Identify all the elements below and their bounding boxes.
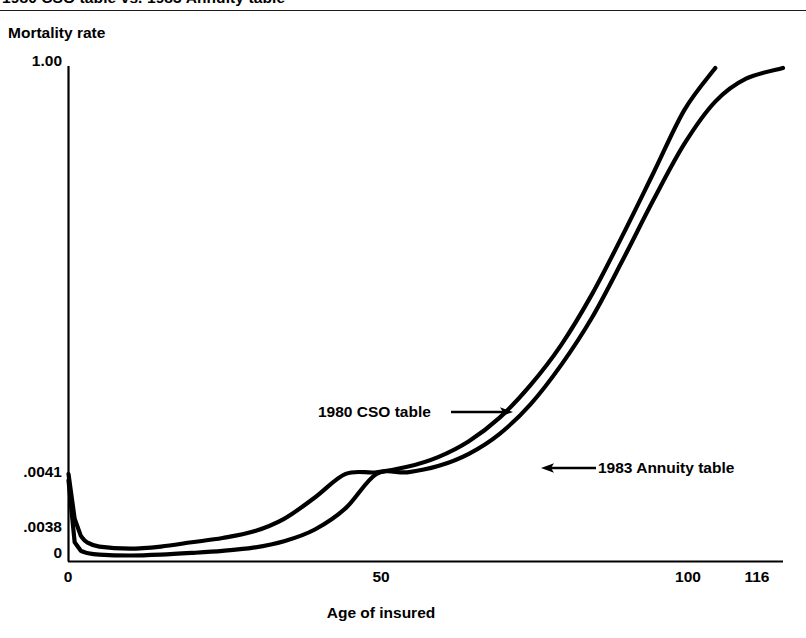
x-axis-title-wrap: Age of insured [0, 604, 806, 622]
annotation-label-1980-cso-table: 1980 CSO table [318, 403, 431, 421]
annotation-arrow-1980-cso [451, 407, 513, 417]
annotation-label-1983-annuity-table: 1983 Annuity table [598, 459, 734, 477]
x-axis-title: Age of insured [327, 604, 436, 621]
figure: 1980 CSO table vs. 1983 Annuity table Mo… [0, 0, 806, 638]
series-line-1983-annuity-table [69, 68, 784, 556]
annotation-arrow-1983-annuity [541, 463, 596, 473]
plot-area [0, 0, 806, 638]
